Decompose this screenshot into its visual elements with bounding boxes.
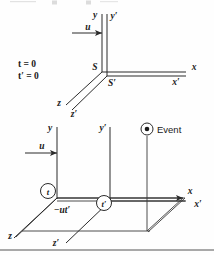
top-z-label: z bbox=[56, 98, 61, 108]
bottom-z-prime-label: z′ bbox=[52, 238, 60, 248]
event-label: Event bbox=[157, 124, 182, 135]
bottom-diagram: Event t t′ −ut′ y y′ x x′ z z′ u bbox=[7, 123, 202, 248]
top-time-label-t: t = 0 bbox=[18, 59, 36, 69]
bottom-y-prime-label: y′ bbox=[99, 123, 107, 133]
top-z-prime-axis bbox=[72, 76, 107, 110]
bottom-y-label: y bbox=[47, 123, 53, 133]
cutoff-caption-fragment bbox=[10, 1, 118, 5]
top-velocity-label: u bbox=[85, 22, 90, 32]
bottom-velocity-label: u bbox=[39, 141, 44, 151]
clock-marker-t-prime: t′ bbox=[97, 196, 112, 211]
bottom-z-axis bbox=[14, 198, 57, 238]
event-marker-inner-dot bbox=[145, 127, 150, 132]
top-diagram: y y′ x x′ z z′ S S′ u t = 0 t′ = 0 bbox=[18, 10, 197, 119]
bottom-x-label: x bbox=[187, 186, 193, 196]
top-time-label-t-prime: t′ = 0 bbox=[18, 71, 39, 81]
bottom-plane-right-edge bbox=[148, 198, 185, 232]
bottom-z-label: z bbox=[7, 231, 12, 241]
physics-figure-reference-frames: y y′ x x′ z z′ S S′ u t = 0 t′ = 0 bbox=[0, 0, 214, 255]
top-z-prime-label: z′ bbox=[70, 109, 78, 119]
top-x-label: x bbox=[191, 62, 197, 72]
displacement-label: −ut′ bbox=[54, 205, 71, 215]
top-origin-label-S: S bbox=[92, 62, 97, 72]
clock-marker-t: t bbox=[41, 184, 56, 199]
bottom-x-prime-label: x′ bbox=[193, 199, 202, 209]
top-y-prime-label: y′ bbox=[110, 11, 118, 21]
top-z-axis bbox=[66, 72, 102, 105]
top-y-label: y bbox=[92, 10, 98, 20]
top-x-prime-label: x′ bbox=[171, 77, 180, 87]
event-marker-icon bbox=[141, 123, 153, 135]
figure-canvas: y y′ x x′ z z′ S S′ u t = 0 t′ = 0 bbox=[0, 0, 214, 255]
top-origin-label-S-prime: S′ bbox=[108, 78, 116, 88]
event-foot-diagonal bbox=[147, 198, 183, 231]
clock-t-prime-text: t′ bbox=[102, 199, 107, 209]
